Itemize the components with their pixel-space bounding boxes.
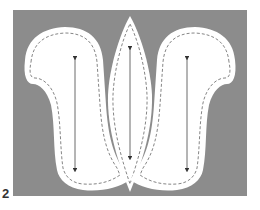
sewing-pattern-diagram <box>13 10 247 196</box>
pattern-panel <box>13 10 247 196</box>
figure-label: 2 <box>2 186 9 201</box>
